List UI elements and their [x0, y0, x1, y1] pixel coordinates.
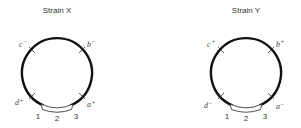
strain-x-label-c: c	[19, 40, 23, 49]
strain-x-sign-c: −	[24, 38, 27, 44]
strain-y-diagram: Strain Y c + b + d − a − 1 2 3	[204, 6, 284, 123]
strain-y-title: Strain Y	[232, 6, 261, 15]
strain-y-sign-b: +	[281, 38, 284, 44]
strain-y-label-a: a	[276, 102, 280, 111]
strain-y-insert-segment	[230, 104, 262, 112]
strain-x-segment-3: 3	[74, 112, 79, 121]
strain-x-title: Strain X	[43, 6, 72, 15]
strain-y-label-b: b	[276, 40, 280, 49]
strain-y-label-c: c	[207, 40, 211, 49]
strain-x-segment-1: 1	[36, 112, 41, 121]
strain-x-insert-segment	[41, 104, 73, 112]
strain-x-label-b: b	[87, 40, 91, 49]
strain-y-segment-1: 1	[225, 112, 230, 121]
strain-x-segment-2: 2	[55, 114, 60, 123]
strain-y-sign-a: −	[281, 101, 284, 107]
strain-y-segment-2: 2	[244, 114, 249, 123]
strain-y-segment-3: 3	[263, 112, 268, 121]
strain-y-sign-d: −	[209, 100, 212, 106]
strain-x-sign-b: −	[92, 38, 95, 44]
strain-x-sign-a: +	[92, 99, 95, 105]
strain-x-label-a: a	[87, 100, 91, 109]
strain-x-diagram: Strain X c − b − d + a + 1 2 3	[15, 6, 95, 123]
diagram-canvas: Strain X c − b − d + a + 1 2 3 Strain Y …	[0, 0, 301, 128]
strain-y-sign-c: +	[212, 38, 215, 44]
strain-x-sign-d: +	[20, 97, 23, 103]
